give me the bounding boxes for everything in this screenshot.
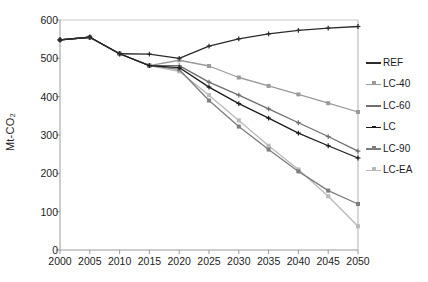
series-marker [296,92,300,96]
legend-label: LC [383,122,396,132]
chart-legend: REFLC-40LC-60LCLC-90LC-EA [366,52,428,181]
series-marker [326,189,330,193]
legend-item-lc-40[interactable]: LC-40 [366,74,428,96]
legend-label: LC-90 [383,144,410,154]
chart-container: Mt-CO₂ 0100200300400500600 REFLC-40LC-60… [0,0,428,282]
legend-item-lc-60[interactable]: LC-60 [366,95,428,117]
legend-label: REF [383,58,403,68]
legend-item-ref[interactable]: REF [366,52,428,74]
legend-marker-icon [366,58,381,68]
legend-label: LC-EA [383,165,412,175]
series-marker [326,101,330,105]
x-axis-tick-label: 2050 [338,255,378,267]
series-marker [267,84,271,88]
y-axis-tick-label: 200 [24,167,58,179]
series-marker [356,224,360,228]
series-lc [58,35,361,161]
legend-marker-icon [366,144,381,154]
legend-marker-icon [366,122,381,132]
y-axis-tick-label: 500 [24,52,58,64]
series-marker [356,202,360,206]
series-marker [296,169,300,173]
series-marker [207,99,211,103]
series-marker [267,148,271,152]
legend-marker-icon [366,165,381,175]
y-axis-tick-label: 600 [24,14,58,26]
legend-marker-icon [366,101,381,111]
y-axis-tick-labels: 0100200300400500600 [20,0,58,282]
series-marker [207,93,211,97]
series-marker [237,118,241,122]
series-lc-90 [58,35,360,206]
y-axis-tick-label: 300 [24,129,58,141]
plot-area [0,0,428,282]
legend-item-lc-90[interactable]: LC-90 [366,138,428,160]
series-marker [326,194,330,198]
series-marker [267,144,271,148]
y-axis-tick-label: 100 [24,206,58,218]
series-line [60,37,358,204]
legend-item-lc[interactable]: LC [366,117,428,139]
legend-marker-icon [366,79,381,89]
series-marker [237,125,241,129]
legend-label: LC-60 [383,101,410,111]
series-marker [356,110,360,114]
legend-label: LC-40 [383,79,410,89]
series-ref [58,24,361,61]
series-line [60,37,358,158]
y-axis-tick-label: 400 [24,91,58,103]
series-line [60,27,358,59]
series-marker [237,76,241,80]
series-marker [207,64,211,68]
legend-item-lc-ea[interactable]: LC-EA [366,160,428,182]
